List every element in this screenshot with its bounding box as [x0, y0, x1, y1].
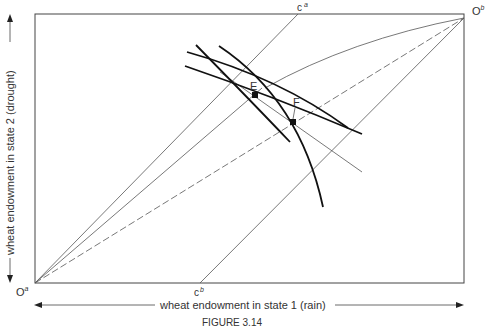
point-e-marker	[252, 92, 258, 98]
point-f-marker	[290, 119, 296, 125]
arrow-down-icon	[7, 275, 13, 283]
figure-caption: FIGURE 3.14	[202, 317, 262, 328]
certainty-b-label: cb	[194, 286, 204, 298]
point-f-label: F	[293, 96, 300, 108]
edgeworth-box-diagram: E F Oa Ob ca cb wheat endowment in state…	[0, 0, 488, 328]
certainty-line-a	[35, 14, 298, 283]
edgeworth-box-frame	[35, 14, 464, 283]
point-f-leader	[293, 108, 295, 119]
indifference-curve-3	[196, 45, 290, 142]
arrow-left-icon	[34, 302, 42, 308]
origin-b-label: Ob	[472, 4, 485, 17]
origin-a-label: Oa	[16, 285, 29, 298]
y-axis-label: wheat endowment in state 2 (drought)	[4, 70, 16, 256]
certainty-a-label: ca	[297, 1, 308, 13]
arrow-up-icon	[7, 14, 13, 22]
indifference-curve-4	[219, 46, 323, 207]
arrow-right-icon	[456, 302, 464, 308]
curve-ob-to-e	[265, 18, 464, 88]
x-axis-label: wheat endowment in state 1 (rain)	[159, 299, 326, 311]
ray-oa-to-e	[35, 88, 262, 283]
diagonal-dashed-line	[35, 18, 464, 283]
point-e-label: E	[250, 80, 257, 92]
